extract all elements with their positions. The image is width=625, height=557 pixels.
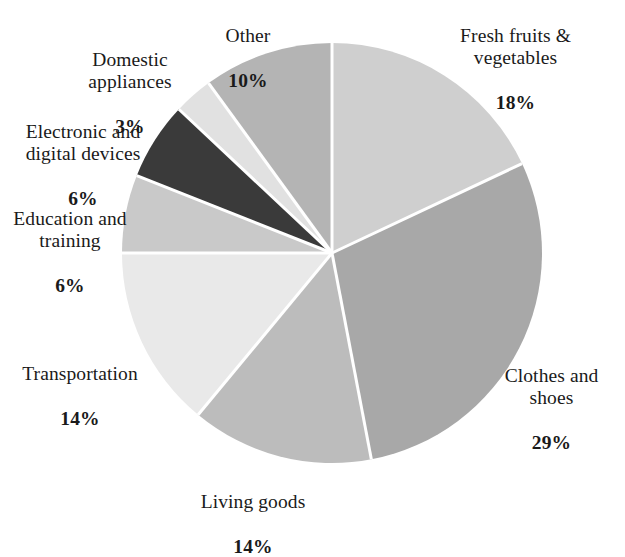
pie-label-transportation: Transportation 14% — [0, 340, 160, 453]
pie-label-fresh-fruits-vegetables-name: Fresh fruits & vegetables — [432, 25, 599, 70]
pie-label-living-goods: Living goods 14% — [158, 468, 348, 557]
pie-label-living-goods-name: Living goods — [158, 491, 348, 514]
pie-label-clothes-shoes-name: Clothes and shoes — [478, 365, 625, 410]
pie-label-education-training-value: 6% — [0, 275, 140, 298]
pie-label-fresh-fruits-vegetables: Fresh fruits & vegetables 18% — [432, 2, 599, 138]
pie-label-domestic-appliances-name: Domestic appliances — [56, 49, 204, 94]
pie-label-education-training: Education and training 6% — [0, 185, 140, 321]
pie-label-education-training-name: Education and training — [0, 208, 140, 253]
pie-label-fresh-fruits-vegetables-value: 18% — [432, 92, 599, 115]
pie-label-electronic-digital-devices-name: Electronic and digital devices — [2, 121, 164, 166]
pie-label-clothes-shoes: Clothes and shoes 29% — [478, 342, 625, 478]
pie-label-transportation-name: Transportation — [0, 363, 160, 386]
pie-label-transportation-value: 14% — [0, 408, 160, 431]
pie-label-living-goods-value: 14% — [158, 536, 348, 557]
pie-label-clothes-shoes-value: 29% — [478, 432, 625, 455]
